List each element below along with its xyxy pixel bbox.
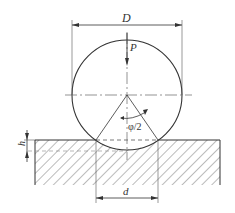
half-angle-arc	[120, 109, 148, 120]
label-P: P	[129, 41, 137, 53]
label-d: d	[123, 185, 129, 197]
brinell-diagram: D P φ/2 h d	[0, 0, 235, 213]
specimen-block	[35, 140, 220, 185]
label-h: h	[16, 141, 27, 146]
load-arrow	[125, 33, 129, 66]
label-half-angle: φ/2	[128, 121, 142, 132]
label-D: D	[121, 11, 131, 25]
